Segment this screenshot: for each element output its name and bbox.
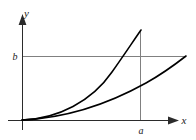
curve-shallow [22, 56, 186, 120]
figure-container: y x b a [0, 0, 196, 140]
x-axis-arrowhead-icon [168, 117, 179, 125]
plot-canvas: y x b a [0, 0, 196, 140]
y-tick-label-b: b [13, 51, 18, 62]
x-axis-label: x [181, 114, 187, 126]
curve-steep [22, 30, 141, 120]
x-tick-label-a: a [139, 125, 144, 136]
y-axis-label: y [23, 7, 29, 19]
